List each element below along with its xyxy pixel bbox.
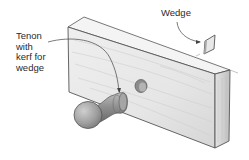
wedge-leader-arrowhead [196, 40, 201, 44]
top-edge-extension [230, 70, 238, 73]
wedge-label: Wedge [161, 8, 191, 19]
tenon-label-line-4: wedge [16, 63, 46, 74]
wedge [196, 35, 215, 56]
woodworking-diagram [0, 0, 249, 160]
tenon-label-line-1: Tenon [16, 31, 46, 42]
tenon-label: Tenon with kerf for wedge [16, 31, 46, 73]
wedge-leader-line [177, 22, 200, 42]
knob [74, 102, 102, 129]
through-hole [135, 80, 147, 93]
tenon-label-line-3: kerf for [16, 52, 46, 63]
board-end-face [215, 70, 230, 148]
